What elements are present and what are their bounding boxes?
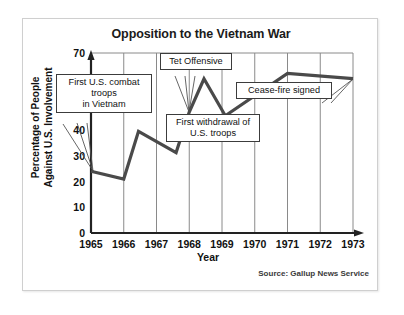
- annotation-first-us-combat-troops: First U.S. combat troops in Vietnam: [56, 74, 152, 113]
- figure-frame: Opposition to the Vietnam War Percentage…: [22, 18, 378, 291]
- svg-text:10: 10: [73, 201, 85, 213]
- svg-text:1972: 1972: [309, 238, 333, 250]
- svg-text:1967: 1967: [145, 238, 169, 250]
- x-axis-title: Year: [53, 251, 363, 263]
- annotation-tet-offensive: Tet Offensive: [160, 53, 232, 70]
- svg-text:1973: 1973: [341, 238, 365, 250]
- x-tick-labels: 1965 1966 1967 1968 1969 1970 1971 1972 …: [79, 238, 365, 250]
- svg-text:1969: 1969: [210, 238, 234, 250]
- svg-text:70: 70: [73, 47, 85, 59]
- annotation-cease-fire-signed: Cease-fire signed: [236, 82, 332, 99]
- svg-text:1971: 1971: [276, 238, 300, 250]
- x-axis-line: [91, 229, 364, 236]
- svg-text:1965: 1965: [79, 238, 103, 250]
- svg-text:1966: 1966: [112, 238, 136, 250]
- svg-text:1968: 1968: [178, 238, 202, 250]
- source-note: Source: Gallup News Service: [258, 269, 369, 278]
- annotation-first-withdrawal: First withdrawal of U.S. troops: [166, 114, 260, 142]
- svg-text:1970: 1970: [243, 238, 267, 250]
- svg-text:20: 20: [73, 176, 85, 188]
